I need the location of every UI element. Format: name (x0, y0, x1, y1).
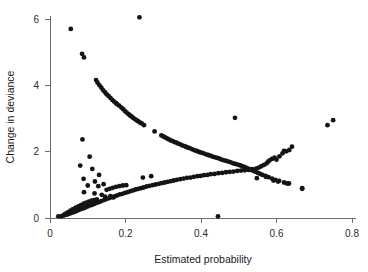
series-mid-left-scatter (78, 137, 129, 200)
y-axis-ticks: 0246 (33, 14, 50, 224)
series-lower-ascending-branch-secondary (60, 197, 99, 218)
series-upper-descending-branch (94, 78, 305, 191)
data-point (264, 174, 269, 179)
data-point (96, 184, 101, 189)
data-point (124, 183, 129, 188)
data-point (80, 137, 85, 142)
data-point (97, 172, 102, 177)
data-point (233, 115, 238, 120)
data-point (325, 123, 330, 128)
data-point (85, 183, 90, 188)
data-point (300, 186, 305, 191)
data-point (90, 167, 95, 172)
y-tick-label: 4 (33, 80, 39, 91)
data-point (111, 195, 116, 200)
data-point (152, 129, 157, 134)
data-point (137, 15, 142, 20)
x-tick-label: 0.4 (194, 228, 208, 239)
data-point (78, 163, 83, 168)
x-tick-label: 0 (47, 228, 53, 239)
data-point (142, 123, 147, 128)
x-axis-title: Estimated probability (154, 253, 252, 265)
data-point (93, 179, 98, 184)
data-point (103, 194, 108, 199)
x-tick-label: 0.6 (270, 228, 284, 239)
data-point (149, 174, 154, 179)
data-point (87, 154, 92, 159)
data-point (68, 27, 73, 32)
data-point (290, 144, 295, 149)
series-mid-scatter-right (140, 174, 153, 180)
data-point (331, 118, 336, 123)
data-point (254, 176, 259, 181)
x-tick-label: 0.2 (119, 228, 133, 239)
data-point (285, 181, 290, 186)
data-point (82, 55, 87, 60)
scatter-plot-canvas: 00.20.40.60.8 0246 Estimated probability… (0, 0, 368, 272)
y-tick-label: 6 (33, 14, 39, 25)
data-points-layer (56, 15, 336, 219)
y-tick-label: 0 (33, 213, 39, 224)
data-point (271, 178, 276, 183)
deviance-scatter-figure: 00.20.40.60.8 0246 Estimated probability… (0, 0, 368, 272)
data-point (82, 190, 87, 195)
x-axis-ticks: 00.20.40.60.8 (47, 218, 359, 239)
x-tick-label: 0.8 (345, 228, 359, 239)
data-point (92, 191, 97, 196)
data-point (94, 197, 99, 202)
data-point (81, 176, 86, 181)
y-tick-label: 2 (33, 146, 39, 157)
y-axis-title: Change in deviance (4, 70, 16, 163)
data-point (216, 214, 221, 219)
data-point (140, 175, 145, 180)
data-point (56, 214, 61, 219)
data-point (101, 182, 106, 187)
data-point (276, 179, 281, 184)
